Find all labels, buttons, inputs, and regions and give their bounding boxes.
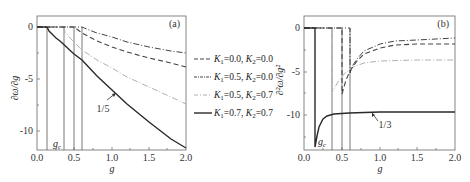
series-b-k05-k0 bbox=[304, 28, 455, 73]
xtick-0-a: 0.0 bbox=[31, 152, 44, 163]
xtick-1-b: 1.0 bbox=[374, 152, 387, 163]
svg-text:K1=0.0, K2=0.0: K1=0.0, K2=0.0 bbox=[213, 54, 273, 66]
y-ticks-b bbox=[304, 28, 307, 137]
xlabel-a: g bbox=[110, 163, 115, 174]
xtick-2-a: 2.0 bbox=[180, 152, 193, 163]
ylabel-b: ∂²ω/∂g² bbox=[274, 64, 285, 96]
panel-a: 0 -5 -10 0.0 0.5 1.0 1.5 2.0 g ∂ω/∂g (a)… bbox=[9, 16, 192, 174]
ytick-5-b: -5 bbox=[292, 66, 300, 77]
gc-label-a: gc bbox=[53, 138, 62, 151]
legend-item-2: K1=0.5, K2=0.0 bbox=[194, 72, 273, 84]
legend-item-1: K1=0.0, K2=0.0 bbox=[194, 54, 273, 66]
critical-lines-b bbox=[332, 28, 350, 150]
ytick-0-b: 0 bbox=[295, 22, 300, 33]
legend-item-4: K1=0.7, K2=0.7 bbox=[194, 108, 273, 120]
panel-label-a: (a) bbox=[169, 18, 180, 30]
annotation-1-5: 1/5 bbox=[97, 103, 110, 114]
xtick-15-a: 1.5 bbox=[143, 152, 156, 163]
svg-text:K1=0.5, K2=0.7: K1=0.5, K2=0.7 bbox=[213, 90, 273, 102]
xtick-05-b: 0.5 bbox=[336, 152, 349, 163]
xlabel-b: g bbox=[378, 163, 383, 174]
x-ticks-a bbox=[56, 147, 167, 150]
legend: K1=0.0, K2=0.0 K1=0.5, K2=0.0 K1=0.5, K2… bbox=[194, 54, 273, 120]
ylabel-a: ∂ω/∂g bbox=[9, 76, 20, 101]
ytick-10-a: -10 bbox=[20, 125, 33, 136]
series-a-k07-k07 bbox=[37, 27, 186, 148]
legend-item-3: K1=0.5, K2=0.7 bbox=[194, 90, 273, 102]
x-ticks-b bbox=[323, 147, 436, 150]
plot-frame-a bbox=[37, 16, 186, 150]
xtick-0-b: 0.0 bbox=[298, 152, 311, 163]
series-b-k0-k0 bbox=[304, 28, 455, 94]
svg-text:K1=0.5, K2=0.0: K1=0.5, K2=0.0 bbox=[213, 72, 273, 84]
series-a-k0-k0 bbox=[37, 27, 186, 67]
y-ticks-a bbox=[37, 27, 40, 131]
ytick-5-a: -5 bbox=[25, 73, 33, 84]
annotation-1-3: 1/3 bbox=[379, 119, 392, 130]
panel-label-b: (b) bbox=[437, 18, 449, 30]
series-b-k05-k07 bbox=[304, 28, 455, 92]
ytick-10-b: -10 bbox=[287, 109, 300, 120]
xtick-05-a: 0.5 bbox=[68, 152, 81, 163]
gc-label-b: gc bbox=[318, 136, 327, 149]
xtick-2-b: 2.0 bbox=[449, 152, 462, 163]
figure: 0 -5 -10 0.0 0.5 1.0 1.5 2.0 g ∂ω/∂g (a)… bbox=[0, 0, 470, 182]
xtick-1-a: 1.0 bbox=[106, 152, 119, 163]
ytick-0-a: 0 bbox=[28, 21, 33, 32]
svg-text:K1=0.7, K2=0.7: K1=0.7, K2=0.7 bbox=[213, 108, 273, 120]
arrowhead-a bbox=[112, 93, 116, 97]
xtick-15-b: 1.5 bbox=[411, 152, 424, 163]
panel-b: 0 -5 -10 0.0 0.5 1.0 1.5 2.0 g ∂²ω/∂g² (… bbox=[274, 16, 461, 174]
